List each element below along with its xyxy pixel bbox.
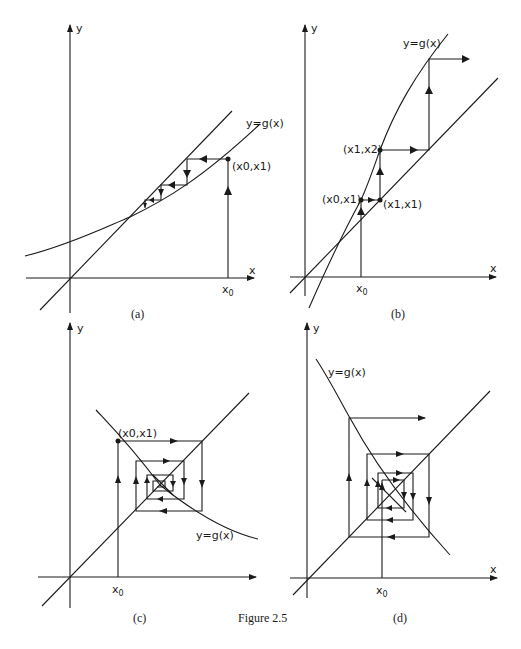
panel-d: y x y=g(x) x0 (d) — [290, 322, 497, 625]
identity-line — [293, 391, 490, 595]
panel-caption: (a) — [131, 307, 144, 321]
arrow-up-icon — [224, 186, 232, 195]
x0-label: x0 — [222, 283, 234, 298]
arrow-up-icon — [115, 475, 121, 483]
arrow-left-icon — [387, 534, 395, 540]
arrow-down-icon — [199, 480, 205, 488]
point-label: (x0,x1) — [118, 427, 157, 440]
arrow-left-icon — [386, 505, 392, 511]
arrow-left-icon — [199, 155, 207, 163]
arrow-up-icon — [346, 473, 352, 481]
x0-label: x0 — [376, 584, 388, 599]
arrow-down-icon — [410, 493, 416, 500]
arrow-up-icon — [375, 480, 381, 487]
y-axis-label: y — [77, 322, 84, 335]
point-x1-x1 — [378, 198, 383, 203]
y-axis-label: y — [311, 22, 318, 35]
panel-caption: (b) — [391, 307, 405, 321]
identity-line — [40, 111, 232, 310]
x-axis-label: x — [249, 264, 256, 277]
x0-label: x0 — [356, 282, 368, 297]
arrow-up-icon — [425, 86, 433, 94]
arrow-up-icon — [357, 207, 365, 215]
x-axis-label: x — [490, 262, 497, 275]
arrow-down-icon — [158, 189, 164, 196]
x0-label: x0 — [112, 583, 124, 598]
arrow-up-icon — [376, 167, 384, 175]
panel-a: y x y=g(x) (x0,x1) x0 (a) — [25, 22, 284, 321]
arrow-down-icon — [181, 478, 187, 485]
arrow-right-icon — [393, 477, 400, 483]
curve-label: y=g(x) — [246, 117, 284, 130]
curve-segment — [153, 475, 173, 495]
y-axis-label: y — [313, 322, 320, 335]
arrow-down-icon — [170, 481, 176, 487]
figure-2-5: y x y=g(x) (x0,x1) x0 (a) y x y=g(x) — [0, 0, 521, 649]
arrow-right-icon — [396, 470, 403, 476]
panel-caption: (c) — [133, 611, 146, 625]
arrow-right-icon — [418, 415, 426, 421]
arrow-right-icon — [396, 451, 404, 457]
identity-line — [290, 78, 498, 293]
curve-label: y=g(x) — [328, 366, 366, 379]
panel-caption: (d) — [393, 611, 407, 625]
cobweb-path — [145, 159, 228, 208]
arrow-right-icon — [462, 55, 470, 63]
curve-g — [25, 124, 260, 256]
point-label: (x1,x2) — [343, 143, 382, 156]
arrow-right-icon — [163, 458, 170, 464]
point-label: (x0,x1) — [232, 160, 271, 173]
point-label: (x0,x1) — [322, 193, 361, 206]
cobweb-path — [361, 59, 466, 200]
arrow-left-icon — [386, 517, 393, 523]
arrow-left-icon — [168, 181, 175, 189]
curve-label: y=g(x) — [403, 37, 441, 50]
arrow-left-icon — [159, 508, 167, 514]
panel-c: y y=g(x) (x0,x1) x0 (c) — [38, 322, 258, 625]
identity-line — [42, 393, 249, 606]
arrow-down-icon — [143, 203, 147, 208]
arrow-up-icon — [364, 479, 370, 486]
arrow-right-icon — [368, 197, 375, 203]
curve-g — [316, 359, 450, 555]
arrow-left-icon — [149, 197, 154, 203]
y-axis-label: y — [76, 22, 83, 35]
arrow-up-icon — [133, 476, 139, 484]
figure-caption: Figure 2.5 — [238, 611, 287, 625]
arrow-up-icon — [144, 477, 150, 483]
x-axis-label: x — [490, 563, 497, 576]
arrow-down-icon — [426, 497, 432, 505]
arrow-left-icon — [157, 496, 163, 502]
arrow-down-icon — [183, 170, 191, 178]
arrow-right-icon — [170, 438, 178, 444]
arrow-right-icon — [410, 146, 418, 154]
point-label: (x1,x1) — [383, 198, 422, 211]
curve-label: y=g(x) — [196, 529, 234, 542]
panel-b: y x y=g(x) (x0,x1) (x1,x1) (x1,x2) x0 (b… — [290, 22, 498, 321]
